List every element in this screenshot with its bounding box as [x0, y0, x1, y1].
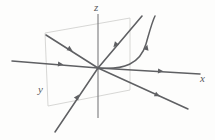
arrowhead-out-of-plane-right-horizontal — [158, 68, 164, 74]
trajectory-curved-orbit-right — [98, 16, 155, 68]
trajectory-in-plane-left-horizontal — [12, 61, 98, 68]
arrowhead-in-plane-left-horizontal — [58, 61, 64, 67]
arrowhead-out-of-plane-lower-right — [154, 92, 161, 99]
trajectory-out-of-plane-lower-right — [98, 68, 188, 109]
z-axis-label: z — [94, 2, 98, 13]
x-axis-label: x — [200, 73, 205, 84]
origin-point — [96, 66, 99, 69]
phase-portrait-figure: z x y — [0, 0, 215, 140]
trajectory-in-plane-upper-left — [46, 35, 98, 68]
y-axis-label: y — [38, 84, 43, 95]
trajectory-out-of-plane-right-horizontal — [98, 68, 200, 74]
phase-portrait-canvas — [0, 0, 215, 140]
trajectory-in-plane-lower-left — [55, 68, 98, 132]
